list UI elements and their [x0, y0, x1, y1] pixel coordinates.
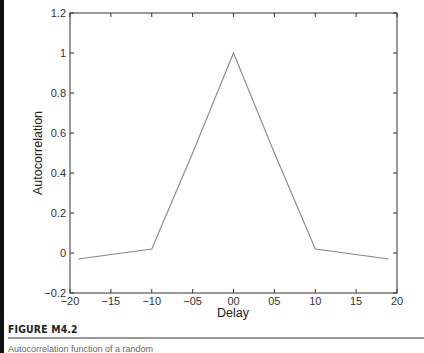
y-tick-label: 0: [60, 247, 66, 259]
x-tick-label: −10: [142, 295, 161, 307]
x-tick-label: 20: [391, 295, 403, 307]
x-tick-label: −15: [102, 295, 121, 307]
y-tick-label: −0.2: [44, 287, 66, 299]
axes-frame: [70, 13, 397, 293]
y-axis-ticks: −0.200.20.40.60.811.2: [44, 7, 397, 299]
y-axis-label: Autocorrelation: [31, 111, 45, 195]
figure-label: FIGURE M4.2: [8, 323, 78, 336]
autocorrelation-chart: −20−15−10−050005101520 −0.200.20.40.60.8…: [0, 0, 424, 320]
y-tick-label: 0.4: [51, 167, 66, 179]
x-tick-label: 10: [309, 295, 321, 307]
y-tick-label: 1: [60, 47, 66, 59]
y-tick-label: 1.2: [51, 7, 66, 19]
autocorrelation-line: [78, 53, 389, 259]
y-tick-label: 0.6: [51, 127, 66, 139]
x-tick-label: 05: [268, 295, 280, 307]
y-tick-label: 0.8: [51, 87, 66, 99]
y-tick-label: 0.2: [51, 207, 66, 219]
caption-divider: [8, 337, 424, 339]
x-tick-label: −05: [183, 295, 202, 307]
x-tick-label: 15: [350, 295, 362, 307]
x-axis-label: Delay: [217, 306, 250, 320]
figure-caption: Autocorrelation function of a random: [8, 344, 153, 353]
